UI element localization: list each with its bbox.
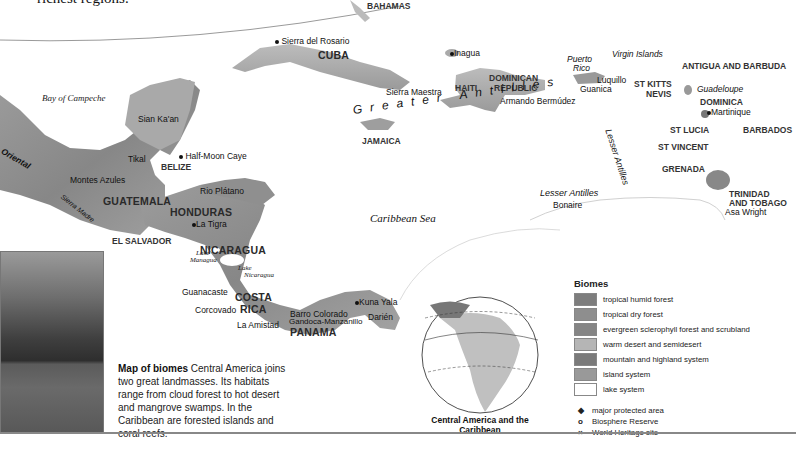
label-belize: BELIZE	[161, 163, 191, 172]
site-sierra-del-rosario: Sierra del Rosario	[275, 37, 349, 46]
label-lesser-antilles: Lesser Antilles	[540, 189, 598, 198]
label-st-lucia: ST LUCIA	[670, 126, 709, 135]
site-half-moon-caye: Half-Moon Caye	[179, 152, 247, 161]
legend-symbol-protected-area: ◆major protected area	[578, 405, 750, 416]
label-el-salvador: EL SALVADOR	[112, 237, 172, 246]
caption-title: Map of biomes	[118, 363, 188, 374]
legend-item-lake-system: lake system	[574, 382, 750, 397]
label-virgin-islands: Virgin Islands	[612, 50, 663, 59]
legend-item-tropical-dry-forest: tropical dry forest	[574, 307, 750, 322]
swatch	[574, 308, 597, 321]
site-darien: Darién	[368, 313, 393, 322]
label-guadeloupe: Guadeloupe	[697, 85, 743, 94]
label-st-kitts: ST KITTS	[634, 80, 672, 89]
label-panama: PANAMA	[290, 327, 337, 338]
label-bahamas: BAHAMAS	[367, 2, 410, 11]
label-bay-of-campeche: Bay of Campeche	[42, 94, 105, 103]
label-barbados: BARBADOS	[743, 126, 792, 135]
legend-item-island-system: island system	[574, 367, 750, 382]
site-armando-bermudez: Armando Bermúdez	[500, 97, 576, 106]
label-nevis: NEVIS	[646, 90, 672, 99]
landscape-photo	[0, 251, 104, 434]
site-sian-kaan: Sian Ka'an	[138, 115, 179, 124]
legend-item-warm-desert: warm desert and semidesert	[574, 337, 750, 352]
label-dominica: DOMINICA	[700, 98, 743, 107]
label-costa-rica-1: COSTA	[235, 292, 272, 303]
intro-text-fragment: richest regions.	[37, 0, 129, 7]
circle-icon: o	[578, 417, 592, 426]
legend: Biomes tropical humid forest tropical dr…	[574, 278, 750, 438]
legend-item-evergreen-sclerophyll: evergreen sclerophyll forest and scrubla…	[574, 322, 750, 337]
map-caption: Map of biomes Central America joins two …	[118, 362, 288, 440]
legend-symbol-biosphere-reserve: oBiosphere Reserve	[578, 416, 750, 427]
legend-item-tropical-humid-forest: tropical humid forest	[574, 292, 750, 307]
swatch	[574, 293, 597, 306]
jamaica-island	[360, 118, 395, 130]
site-martinique: Martinique	[707, 108, 751, 117]
site-inagua: Inagua	[450, 49, 480, 58]
legend-item-mountain-highland: mountain and highland system	[574, 352, 750, 367]
site-gandoca-manzanillo: Gandoca-Manzanillo	[289, 318, 362, 326]
site-rio-platano: Rio Plátano	[200, 187, 244, 196]
swatch	[574, 353, 597, 366]
site-corcovado: Corcovado	[195, 306, 236, 315]
site-bonaire: Bonaire	[553, 201, 582, 210]
site-montes-azules: Montes Azules	[70, 176, 125, 185]
diamond-icon: ◆	[578, 406, 592, 415]
site-tikal: Tikal	[128, 155, 146, 164]
label-lake-nicaragua-2: Nicaragua	[244, 272, 274, 279]
legend-title: Biomes	[574, 278, 750, 289]
trinidad-island	[706, 170, 730, 190]
site-la-amistad: La Amistad	[237, 321, 279, 330]
swatch	[574, 323, 597, 336]
swatch	[574, 338, 597, 351]
label-caribbean-sea: Caribbean Sea	[370, 213, 436, 224]
label-honduras: HONDURAS	[170, 207, 232, 218]
label-antigua-and-barbuda: ANTIGUA AND BARBUDA	[682, 62, 786, 71]
label-costa-rica-2: RICA	[240, 304, 266, 315]
site-sierra-maestra: Sierra Maestra	[386, 88, 442, 97]
label-grenada: GRENADA	[662, 165, 705, 174]
site-la-tigra: La Tigra	[192, 220, 227, 229]
label-jamaica: JAMAICA	[362, 137, 401, 146]
swatch	[574, 383, 597, 396]
site-guanica: Guanica	[580, 85, 612, 94]
label-guatemala: GUATEMALA	[103, 196, 171, 207]
label-lake-managua-2: Managua	[190, 257, 217, 264]
site-kuna-yala: Kuna Yala	[355, 298, 397, 307]
swatch	[574, 368, 597, 381]
caption-body: Central America joins two great landmass…	[118, 363, 285, 439]
label-cuba: CUBA	[318, 50, 349, 61]
bottom-rule	[0, 432, 796, 434]
site-guanacaste: Guanacaste	[182, 288, 228, 297]
label-puerto-rico-2: Rico	[573, 64, 590, 73]
label-st-vincent: ST VINCENT	[658, 143, 709, 152]
site-asa-wright: Asa Wright	[725, 208, 766, 217]
